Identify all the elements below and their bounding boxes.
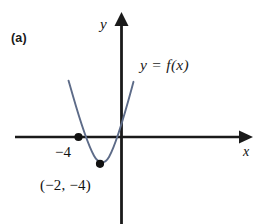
y-axis-label: y — [100, 17, 107, 32]
panel-label: (a) — [11, 32, 27, 45]
vertex-coordinate-label: (−2, −4) — [40, 178, 91, 193]
x-intercept-point — [74, 133, 82, 141]
parabola-curve — [69, 81, 134, 163]
y-axis-arrow-icon — [115, 12, 129, 26]
graph-figure: (a) y x y = f(x) −4 (−2, −4) — [0, 0, 265, 224]
vertex-point — [96, 160, 104, 168]
x-intercept-label: −4 — [55, 145, 71, 160]
function-equation-label: y = f(x) — [140, 57, 189, 73]
x-axis-label: x — [243, 145, 249, 159]
x-axis-arrow-icon — [239, 131, 253, 144]
